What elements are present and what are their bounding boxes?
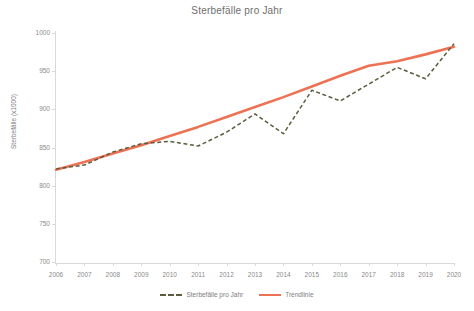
- legend-item-sterbefaelle[interactable]: Sterbefälle pro Jahr: [160, 292, 243, 299]
- legend-item-trendlinie[interactable]: Trendlinie: [259, 292, 313, 299]
- legend-swatch-dashed: [160, 294, 182, 296]
- legend-label-trendlinie: Trendlinie: [285, 292, 313, 299]
- chart-container: Sterbefälle pro Jahr Sterbefälle (x1000)…: [0, 0, 474, 311]
- legend-swatch-solid: [259, 294, 281, 296]
- legend-label-sterbefaelle: Sterbefälle pro Jahr: [186, 292, 243, 299]
- chart-legend: Sterbefälle pro Jahr Trendlinie: [0, 292, 474, 299]
- plot-area: [0, 0, 474, 311]
